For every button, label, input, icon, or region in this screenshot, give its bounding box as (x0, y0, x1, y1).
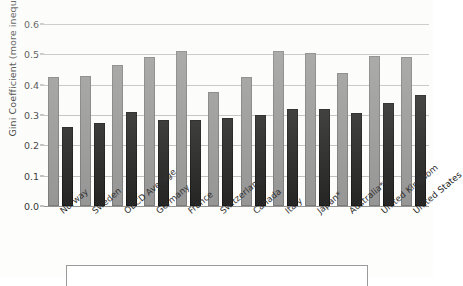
bar-group (175, 24, 203, 206)
bar-black (319, 109, 330, 206)
x-axis-labels: NorwaySwedenOECD AverageGermanyFranceSwi… (44, 208, 429, 268)
y-tick-label: 0.2 (24, 140, 39, 151)
bar-group (207, 24, 235, 206)
y-tick-label: 0.3 (24, 110, 39, 121)
bar-gray (305, 53, 316, 206)
bar-black (222, 118, 233, 206)
bar-black (383, 103, 394, 206)
bar-group (111, 24, 139, 206)
bar-black (287, 109, 298, 206)
bar-group (272, 24, 300, 206)
bar-black (190, 120, 201, 206)
bar-group (79, 24, 107, 206)
bar-gray (273, 51, 284, 206)
bar-black (126, 112, 137, 206)
bar-gray (112, 65, 123, 206)
bar-gray (337, 73, 348, 206)
bar-black (62, 127, 73, 206)
bar-black (94, 123, 105, 206)
plot-area: 0.00.10.20.30.40.50.6 (44, 24, 429, 206)
bar-group (47, 24, 75, 206)
bar-gray (48, 77, 59, 206)
y-axis-title: Gini Coefficient (more inequality) (7, 0, 23, 141)
bar-group (336, 24, 364, 206)
bar-black (351, 113, 362, 206)
y-tick-label: 0.5 (24, 49, 39, 60)
bar-group (304, 24, 332, 206)
y-tick-label: 0.6 (24, 19, 39, 30)
bar-black (158, 120, 169, 206)
legend-box (66, 265, 368, 286)
bar-series-container (44, 24, 429, 206)
bar-black (255, 115, 266, 206)
y-tick-label: 0.4 (24, 79, 39, 90)
y-tick-label: 0.1 (24, 170, 39, 181)
bar-gray (208, 92, 219, 206)
y-tick-label: 0.0 (24, 201, 39, 212)
